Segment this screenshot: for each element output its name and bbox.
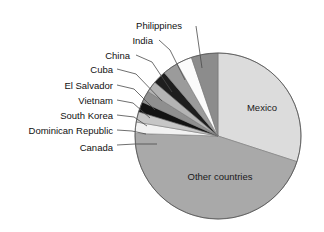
slice-label: Dominican Republic xyxy=(29,125,114,136)
slice-label: Philippines xyxy=(136,20,182,31)
slice-label: Vietnam xyxy=(78,95,113,106)
slice-label: Canada xyxy=(80,142,114,153)
slice-label: Cuba xyxy=(90,64,113,75)
slice-label: South Korea xyxy=(60,110,114,121)
pie-chart-figure: MexicoOther countriesCanadaDominican Rep… xyxy=(0,0,324,232)
slice-label: Mexico xyxy=(247,102,277,113)
slice-label: India xyxy=(132,35,153,46)
pie-chart-canvas: MexicoOther countriesCanadaDominican Rep… xyxy=(0,0,324,232)
pie-slices-group xyxy=(135,53,301,219)
slice-label: China xyxy=(105,50,131,61)
slice-label: El Salvador xyxy=(64,80,113,91)
slice-label: Other countries xyxy=(188,171,253,182)
